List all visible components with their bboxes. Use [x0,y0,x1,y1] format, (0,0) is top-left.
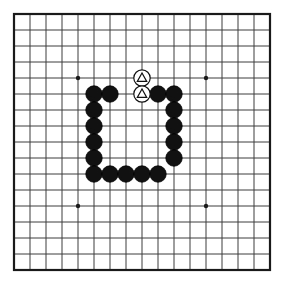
black-stone[interactable] [150,86,166,102]
goban-canvas[interactable] [0,0,284,291]
black-stone[interactable] [166,118,182,134]
black-stone[interactable] [86,134,102,150]
black-stone[interactable] [86,166,102,182]
black-stone[interactable] [118,166,134,182]
black-stone[interactable] [86,102,102,118]
star-point [76,204,80,208]
black-stone[interactable] [166,134,182,150]
black-stone[interactable] [86,118,102,134]
star-point [204,76,208,80]
black-stone[interactable] [102,86,118,102]
black-stone[interactable] [166,102,182,118]
star-point [204,204,208,208]
black-stone[interactable] [150,166,166,182]
star-point [76,76,80,80]
black-stone[interactable] [86,150,102,166]
black-stone[interactable] [166,150,182,166]
black-stone[interactable] [134,166,150,182]
black-stone[interactable] [166,86,182,102]
black-stone[interactable] [102,166,118,182]
black-stone[interactable] [86,86,102,102]
go-board-diagram [0,0,284,291]
